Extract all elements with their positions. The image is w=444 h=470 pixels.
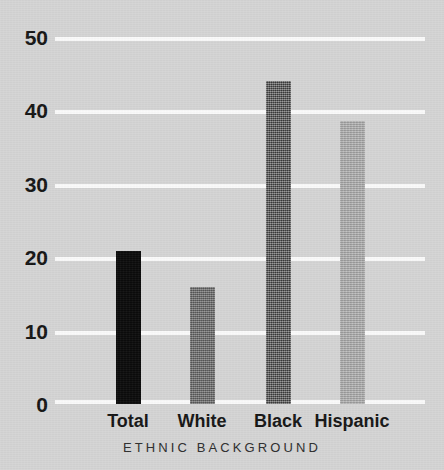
gridline-20: [55, 257, 425, 261]
gridline-30: [55, 184, 425, 188]
y-axis-tick-10: 10: [4, 321, 48, 342]
y-axis-tick-40: 40: [4, 100, 48, 121]
y-axis-tick-30: 30: [4, 174, 48, 195]
y-axis-tick-0: 0: [4, 394, 48, 415]
bar-chart-figure: 50 40 30 20 10 0 Total White Black Hispa…: [0, 0, 444, 470]
plot-area: [55, 37, 425, 404]
y-axis-tick-50: 50: [4, 27, 48, 48]
gridline-10: [55, 331, 425, 335]
y-axis-tick-20: 20: [4, 247, 48, 268]
bar-black[interactable]: [266, 81, 291, 404]
gridline-50: [55, 37, 425, 41]
x-axis-tick-hispanic: Hispanic: [297, 412, 407, 432]
gridline-0: [55, 400, 425, 404]
bar-hispanic[interactable]: [340, 121, 365, 404]
gridline-40: [55, 110, 425, 114]
bar-total[interactable]: [116, 251, 141, 404]
bar-white[interactable]: [190, 287, 215, 404]
x-axis-title: ETHNIC BACKGROUND: [0, 441, 444, 454]
